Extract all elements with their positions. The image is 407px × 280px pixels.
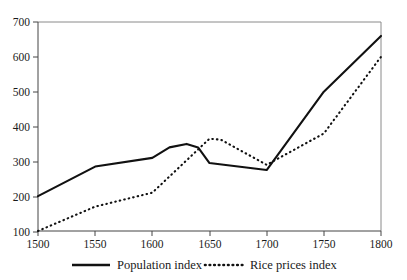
x-tick-label: 1600: [141, 238, 164, 250]
y-tick-label: 600: [13, 51, 31, 63]
x-tick-label: 1500: [27, 238, 50, 250]
x-tick-label: 1700: [256, 238, 279, 250]
y-tick-label: 700: [13, 16, 31, 28]
y-tick-label: 500: [13, 86, 31, 98]
y-tick-label: 200: [13, 191, 31, 203]
x-axis-tick-labels: 1500 1550 1600 1650 1700 1750 1800: [27, 238, 393, 250]
x-tick-label: 1650: [199, 238, 222, 250]
chart-figure: 100 200 300 400 500 600 700 1500 1550 16…: [0, 0, 407, 280]
line-chart: 100 200 300 400 500 600 700 1500 1550 16…: [0, 0, 407, 280]
chart-legend: Population index Rice prices index: [72, 258, 338, 272]
x-tick-label: 1750: [313, 238, 336, 250]
y-axis-ticks: [33, 22, 38, 232]
x-tick-label: 1800: [370, 238, 393, 250]
y-tick-label: 100: [13, 226, 31, 238]
legend-label-rice-prices-index: Rice prices index: [250, 258, 338, 272]
y-axis-tick-labels: 100 200 300 400 500 600 700: [13, 16, 31, 238]
x-axis-ticks: [38, 231, 381, 236]
series-population-index: [38, 36, 381, 196]
legend-label-population-index: Population index: [117, 258, 203, 272]
y-tick-label: 300: [13, 156, 31, 168]
x-tick-label: 1550: [84, 238, 107, 250]
plot-frame: [38, 22, 381, 231]
series-rice-prices-index: [38, 57, 381, 231]
y-tick-label: 400: [13, 121, 31, 133]
